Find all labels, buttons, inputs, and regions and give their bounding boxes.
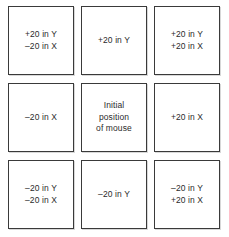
cell-label-line: +20 in Y: [25, 29, 57, 41]
cell-label-line: –20 in Y: [25, 183, 57, 195]
cell-label-line: +20 in X: [171, 112, 203, 124]
cell-label-line: position: [99, 112, 129, 124]
cell-label-line: –20 in X: [25, 195, 57, 207]
cell-label-line: –20 in X: [25, 41, 57, 53]
grid-cell-bottom-center[interactable]: –20 in Y: [81, 160, 147, 229]
grid-cell-middle-right[interactable]: +20 in X: [154, 83, 220, 152]
cell-label-line: +20 in X: [171, 195, 203, 207]
mouse-offset-grid: +20 in Y –20 in X +20 in Y +20 in Y +20 …: [8, 6, 221, 229]
grid-cell-middle-left[interactable]: –20 in X: [8, 83, 74, 152]
grid-cell-top-center[interactable]: +20 in Y: [81, 6, 147, 75]
cell-label-line: of mouse: [96, 123, 132, 135]
cell-label-line: –20 in X: [25, 112, 57, 124]
grid-cell-top-left[interactable]: +20 in Y –20 in X: [8, 6, 74, 75]
grid-cell-top-right[interactable]: +20 in Y +20 in X: [154, 6, 220, 75]
cell-label-line: +20 in X: [171, 41, 203, 53]
grid-cell-middle-center[interactable]: Initial position of mouse: [81, 83, 147, 152]
grid-cell-bottom-left[interactable]: –20 in Y –20 in X: [8, 160, 74, 229]
cell-label-line: –20 in Y: [171, 183, 203, 195]
grid-cell-bottom-right[interactable]: –20 in Y +20 in X: [154, 160, 220, 229]
cell-label-line: +20 in Y: [98, 35, 130, 47]
cell-label-line: –20 in Y: [98, 189, 130, 201]
cell-label-line: +20 in Y: [171, 29, 203, 41]
cell-label-line: Initial: [104, 100, 125, 112]
